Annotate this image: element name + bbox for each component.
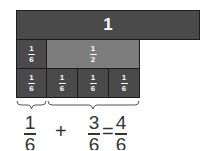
denominator: 6: [89, 136, 100, 151]
equals-sign: =: [102, 121, 114, 141]
term1: 16: [24, 114, 36, 150]
numerator: 1: [25, 114, 36, 132]
denominator: 6: [116, 136, 127, 151]
denominator: 6: [25, 136, 36, 151]
numerator: 4: [116, 114, 127, 132]
plus-sign: +: [55, 121, 67, 141]
numerator: 3: [89, 114, 100, 132]
term2: 36: [88, 114, 100, 150]
result: 46: [115, 114, 127, 150]
